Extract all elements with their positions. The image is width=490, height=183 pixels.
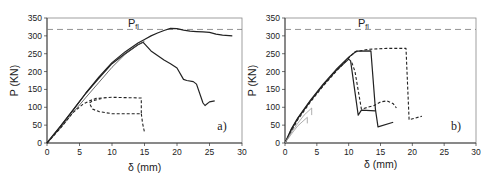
pfl-label: Pfl	[128, 17, 139, 30]
y-tick-label: 350	[266, 13, 280, 23]
x-tick-label: 30	[471, 147, 481, 157]
y-axis-label: P (KN)	[246, 65, 258, 96]
series-curve-3-thin-double	[47, 41, 145, 143]
x-tick-label: 20	[172, 147, 182, 157]
x-tick-label: 5	[77, 147, 82, 157]
y-tick-label: 50	[33, 120, 43, 130]
x-axis-label: δ (mm)	[364, 158, 397, 170]
y-tick-label: 200	[28, 67, 42, 77]
x-axis-label: δ (mm)	[128, 161, 161, 173]
y-tick-label: 100	[28, 102, 42, 112]
y-tick-label: 0	[275, 138, 280, 148]
x-tick-label: 25	[439, 147, 449, 157]
chart-panel-a: 051015202530050100150200250300350δ (mm)P…	[8, 13, 247, 173]
series-curve-4-dashed-tail	[141, 114, 144, 133]
x-tick-label: 10	[107, 147, 117, 157]
x-tick-label: 20	[408, 147, 418, 157]
plot-area	[47, 18, 242, 143]
y-tick-label: 350	[28, 13, 42, 23]
y-tick-label: 50	[271, 120, 281, 130]
series-curve-2-solid-lower	[47, 42, 215, 143]
panel-label: a)	[217, 119, 226, 133]
y-tick-label: 150	[266, 84, 280, 94]
y-tick-label: 250	[266, 49, 280, 59]
y-tick-label: 300	[266, 31, 280, 41]
series-curve-2-solid	[285, 59, 375, 143]
x-tick-label: 0	[283, 147, 288, 157]
y-axis-label: P (KN)	[8, 65, 20, 96]
pfl-label: Pfl	[358, 17, 369, 30]
y-tick-label: 250	[28, 49, 42, 59]
y-tick-label: 200	[266, 67, 280, 77]
y-tick-label: 150	[28, 84, 42, 94]
x-tick-label: 0	[45, 147, 50, 157]
x-tick-label: 5	[314, 147, 319, 157]
y-tick-label: 100	[266, 102, 280, 112]
chart-panel-b: 051015202530050100150200250300350δ (mm)P…	[246, 13, 481, 170]
series-curve-3-dashed-long	[285, 48, 422, 143]
x-tick-label: 10	[344, 147, 354, 157]
series-curve-1-solid-upper	[47, 28, 232, 143]
series-curve-4-dashed	[47, 97, 141, 143]
x-tick-label: 30	[237, 147, 247, 157]
x-tick-label: 15	[376, 147, 386, 157]
plot-area	[285, 18, 476, 143]
x-tick-label: 25	[205, 147, 215, 157]
y-tick-label: 0	[37, 138, 42, 148]
chart-figure: 051015202530050100150200250300350δ (mm)P…	[0, 0, 490, 183]
x-tick-label: 15	[140, 147, 150, 157]
panel-label: b)	[451, 119, 461, 133]
y-tick-label: 300	[28, 31, 42, 41]
series-curve-1-solid	[285, 51, 393, 143]
